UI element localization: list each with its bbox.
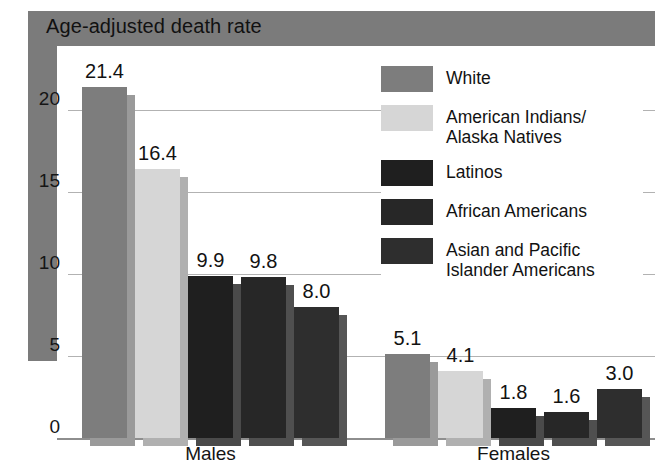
legend-item: Asian and Pacific Islander Americans	[381, 238, 643, 280]
bar-value-label: 3.0	[591, 362, 648, 385]
bar	[491, 408, 536, 438]
group-label-males: Males	[141, 443, 281, 465]
bar-value-label: 4.1	[432, 344, 489, 367]
bar	[135, 169, 180, 438]
bar	[438, 371, 483, 438]
legend-swatch	[381, 105, 433, 131]
bar-face	[135, 169, 180, 438]
legend-label: Asian and Pacific Islander Americans	[446, 238, 595, 280]
bar-value-label: 5.1	[379, 327, 436, 350]
legend-label: American Indians/ Alaska Natives	[446, 105, 586, 147]
legend-item: Latinos	[381, 160, 643, 186]
bar-face	[544, 412, 589, 438]
bar-value-label: 9.8	[235, 250, 292, 273]
group-label-females: Females	[444, 443, 584, 465]
bar-face	[438, 371, 483, 438]
bar-value-label: 16.4	[129, 142, 186, 165]
bar-face	[188, 276, 233, 438]
bar-face	[491, 408, 536, 438]
bar	[82, 87, 127, 438]
bar	[544, 412, 589, 438]
y-axis-tick-label: 0	[14, 416, 60, 438]
legend-swatch	[381, 66, 433, 92]
y-axis-tick-label: 5	[14, 334, 60, 356]
bar	[385, 354, 430, 438]
bar-face	[385, 354, 430, 438]
legend-item: African Americans	[381, 199, 643, 225]
legend-item: American Indians/ Alaska Natives	[381, 105, 643, 147]
bar	[294, 307, 339, 438]
bar-value-label: 9.9	[182, 249, 239, 272]
y-axis-tick-label: 20	[14, 88, 60, 110]
legend-label: White	[446, 66, 491, 88]
bar-face	[597, 389, 642, 438]
bar	[597, 389, 642, 438]
bar-face	[241, 277, 286, 438]
bar-value-label: 1.8	[485, 381, 542, 404]
legend: WhiteAmerican Indians/ Alaska NativesLat…	[381, 66, 643, 293]
legend-swatch	[381, 160, 433, 186]
bar-value-label: 21.4	[76, 60, 133, 83]
bar-face	[82, 87, 127, 438]
bar	[241, 277, 286, 438]
legend-label: Latinos	[446, 160, 502, 182]
legend-label: African Americans	[446, 199, 587, 221]
chart-container: Age-adjusted death rate 05101520 21.416.…	[0, 0, 655, 474]
bar-face	[294, 307, 339, 438]
bar-value-label: 1.6	[538, 385, 595, 408]
legend-swatch	[381, 238, 433, 264]
legend-item: White	[381, 66, 643, 92]
y-axis-tick-label: 15	[14, 170, 60, 192]
bar	[188, 276, 233, 438]
legend-swatch	[381, 199, 433, 225]
y-axis-tick-label: 10	[14, 252, 60, 274]
bar-value-label: 8.0	[288, 280, 345, 303]
